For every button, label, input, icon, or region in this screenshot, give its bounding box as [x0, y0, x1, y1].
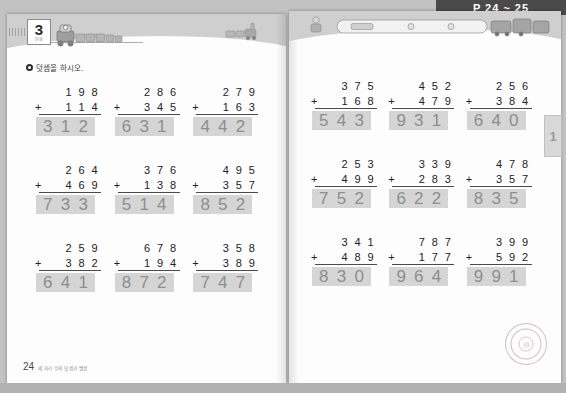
answer-field[interactable]: 931 [389, 111, 448, 130]
addend-top: 452 [415, 80, 454, 92]
answer-digit: 3 [57, 195, 75, 214]
digit: 3 [141, 164, 154, 176]
addend-top-row: 264 [35, 162, 101, 177]
digit: 1 [338, 95, 351, 107]
addend-bottom: 177 [415, 251, 454, 263]
left-problem-grid: 198+114312286+345631279+163442264+469733… [35, 84, 271, 292]
digit: 3 [219, 242, 232, 254]
digit: 3 [154, 179, 167, 191]
digit: 5 [364, 80, 377, 92]
plus-operator: + [311, 251, 317, 263]
plus-operator: + [466, 173, 472, 185]
answer-field[interactable]: 733 [36, 195, 95, 214]
answer-field[interactable]: 747 [193, 273, 252, 292]
unit-sublabel: 단원 [35, 37, 43, 42]
answer-field[interactable]: 852 [193, 195, 252, 214]
answer-field[interactable]: 964 [389, 267, 448, 286]
digit: 8 [428, 173, 441, 185]
digit: 2 [62, 164, 75, 176]
digit: 8 [88, 86, 101, 98]
answer-field[interactable]: 991 [467, 267, 526, 286]
answer-field[interactable]: 752 [312, 189, 371, 208]
answer-digit: 4 [153, 195, 171, 214]
digit: 1 [141, 179, 154, 191]
answer-field[interactable]: 543 [312, 111, 371, 130]
digit: 1 [219, 101, 232, 113]
answer-digit: 2 [74, 117, 92, 136]
plus-operator: + [35, 179, 41, 191]
digit: 9 [364, 251, 377, 263]
digit: 2 [493, 80, 506, 92]
digit: 9 [506, 251, 519, 263]
footer-note: 세 자리 수의 덧셈과 뺄셈 [38, 365, 87, 371]
svg-text:印: 印 [523, 341, 530, 349]
digit: 3 [364, 158, 377, 170]
digit: 8 [232, 257, 245, 269]
answer-digit: 4 [487, 111, 505, 130]
addend-bottom-row: +499 [311, 171, 377, 186]
answer-field[interactable]: 514 [115, 195, 174, 214]
sum-rule-line [39, 270, 101, 271]
addend-top-row: 478 [466, 156, 532, 171]
digit: 8 [364, 95, 377, 107]
digit: 5 [351, 158, 364, 170]
digit: 1 [62, 101, 75, 113]
answer-digit: 9 [392, 267, 410, 286]
digit: 3 [493, 236, 506, 248]
digit: 7 [441, 236, 454, 248]
sum-rule-line [315, 186, 377, 187]
plus-operator: + [114, 257, 120, 269]
addend-bottom: 138 [141, 179, 180, 191]
answer-field[interactable]: 442 [193, 117, 252, 136]
answer-digit: 6 [392, 189, 410, 208]
digit: 7 [245, 179, 258, 191]
answer-field[interactable]: 872 [115, 273, 174, 292]
answer-digit: 8 [196, 195, 214, 214]
digit: 1 [141, 257, 154, 269]
digit: 6 [519, 80, 532, 92]
answer-field[interactable]: 631 [115, 117, 174, 136]
answer-digit: 4 [214, 117, 232, 136]
answer-digit: 1 [74, 273, 92, 292]
addend-bottom: 168 [338, 95, 377, 107]
sum-rule-line [39, 192, 101, 193]
answer-field[interactable]: 830 [312, 267, 371, 286]
digit: 7 [232, 86, 245, 98]
answer-digit: 1 [57, 117, 75, 136]
addend-top-row: 253 [311, 156, 377, 171]
addend-top-row: 358 [192, 240, 258, 255]
digit: 5 [75, 242, 88, 254]
addend-top: 678 [141, 242, 180, 254]
sum-rule-line [392, 108, 454, 109]
addend-bottom-row: +489 [311, 249, 377, 264]
instruction-line: 덧셈을 하시오. [26, 62, 84, 73]
digit: 3 [245, 101, 258, 113]
problem-item: 256+384640 [466, 78, 532, 130]
answer-field[interactable]: 622 [389, 189, 448, 208]
digit: 1 [415, 251, 428, 263]
digit: 3 [219, 257, 232, 269]
digit: 7 [428, 251, 441, 263]
digit: 4 [493, 158, 506, 170]
digit: 7 [428, 95, 441, 107]
answer-field[interactable]: 641 [36, 273, 95, 292]
digit: 4 [167, 257, 180, 269]
addend-top-row: 286 [114, 84, 180, 99]
chapter-side-tab[interactable]: 1 [544, 115, 562, 157]
digit: 2 [415, 173, 428, 185]
answer-digit: 8 [118, 273, 136, 292]
digit: 4 [338, 251, 351, 263]
approval-seal-stamp: 印 [501, 319, 551, 369]
plus-operator: + [35, 101, 41, 113]
addend-bottom: 163 [219, 101, 258, 113]
answer-field[interactable]: 312 [36, 117, 95, 136]
answer-field[interactable]: 640 [467, 111, 526, 130]
answer-field[interactable]: 835 [467, 189, 526, 208]
addend-bottom-row: +469 [35, 177, 101, 192]
sum-rule-line [470, 108, 532, 109]
answer-digit: 7 [135, 273, 153, 292]
addend-top-row: 339 [388, 156, 454, 171]
page-footer: 24세 자리 수의 덧셈과 뺄셈 [23, 361, 87, 372]
seal-icon: 印 [506, 324, 546, 364]
addend-bottom-row: +114 [35, 99, 101, 114]
